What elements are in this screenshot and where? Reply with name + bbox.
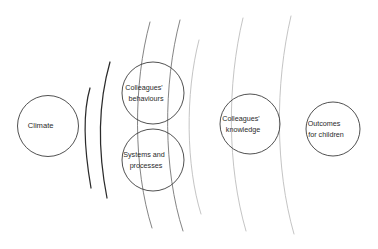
ripple-arc-4 xyxy=(168,20,183,231)
ripple-arc-2 xyxy=(101,62,110,198)
node-colleagues-behaviours-label-line-1: Colleagues' xyxy=(125,83,163,92)
ripple-arc-1 xyxy=(85,88,91,188)
node-colleagues-knowledge-label-line-1: Colleagues' xyxy=(222,114,260,123)
ripple-arc-5 xyxy=(189,40,201,214)
ripple-arc-7 xyxy=(279,16,294,234)
node-outcomes-for-children-label-line-2: for children xyxy=(308,130,344,139)
node-colleagues-behaviours-label: Colleagues' behaviours xyxy=(0,0,181,103)
node-systems-and-processes-label-line-2: processes xyxy=(130,161,163,170)
node-climate-label-line-1: Climate xyxy=(28,121,54,130)
ripple-influence-diagram: Climate Colleagues' behaviours Systems a… xyxy=(0,0,378,249)
node-colleagues-knowledge-label-line-2: knowledge xyxy=(226,125,260,134)
ripple-arc-3 xyxy=(137,22,152,228)
node-colleagues-behaviours-label-line-2: behaviours xyxy=(128,94,164,103)
diagram-canvas: Climate Colleagues' behaviours Systems a… xyxy=(0,0,378,249)
node-climate[interactable]: Climate xyxy=(0,0,79,157)
node-outcomes-for-children-label-line-1: Outcomes xyxy=(308,119,341,128)
node-systems-and-processes-label-line-1: Systems and xyxy=(123,150,165,159)
